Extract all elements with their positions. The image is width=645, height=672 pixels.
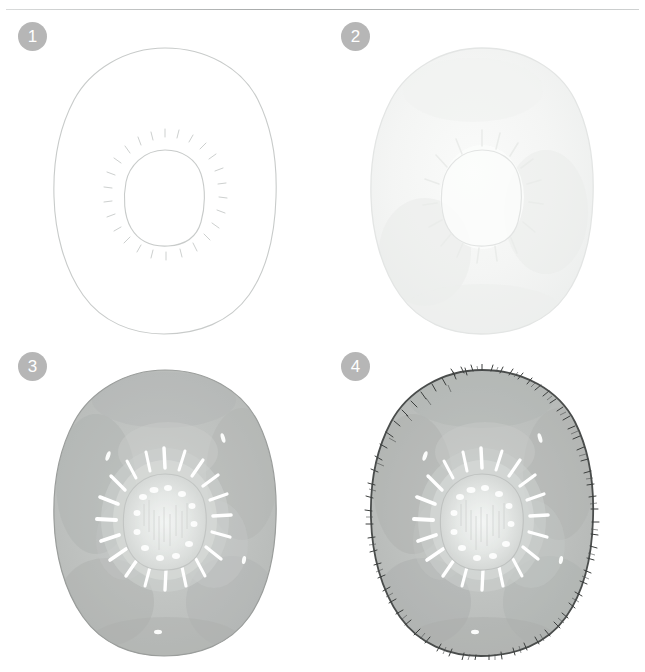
seed-tick-marks — [104, 129, 227, 260]
artwork-step-3 — [46, 364, 284, 660]
step-badge-3: 3 — [18, 352, 47, 381]
step-panel-3: 3 — [0, 342, 322, 672]
tutorial-sheet: 1 — [0, 0, 645, 672]
artwork-step-2 — [363, 42, 601, 338]
core-outline-path — [124, 150, 204, 246]
outer-outline-path — [54, 48, 276, 334]
step-panel-1: 1 — [0, 14, 322, 346]
artwork-step-4 — [363, 364, 601, 660]
step-panel-4: 4 — [323, 342, 645, 672]
step-badge-1: 1 — [18, 22, 47, 51]
top-divider-rule — [6, 9, 639, 10]
step-panel-2: 2 — [323, 14, 645, 346]
artwork-step-1 — [46, 42, 284, 338]
